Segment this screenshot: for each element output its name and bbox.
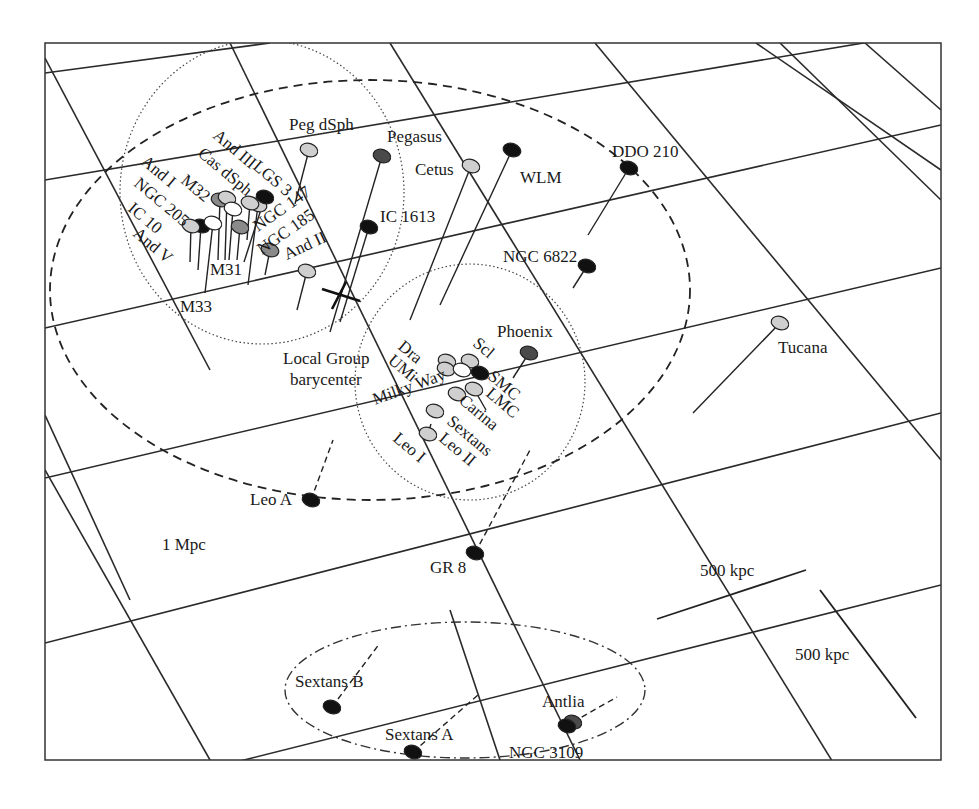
- galaxy-label-cetus: Cetus: [415, 160, 454, 179]
- galaxy-label-ngc-6822: NGC 6822: [503, 247, 577, 266]
- scale-bar-vertical-label: 500 kpc: [795, 645, 850, 664]
- galaxy-label-ic-1613: IC 1613: [380, 207, 435, 226]
- galaxy-label-peg-dsph: Peg dSph: [289, 115, 354, 134]
- galaxy-marker-sextans-b: [321, 698, 342, 716]
- one-mpc-label: 1 Mpc: [162, 535, 206, 554]
- galaxy-marker-leo-a: [300, 491, 321, 509]
- galaxy-label-pegasus: Pegasus: [387, 127, 442, 146]
- galaxy-marker-tucana: [769, 314, 790, 332]
- galaxy-label-m32: M32: [177, 171, 214, 206]
- galaxy-marker-leo-ii: [417, 425, 438, 443]
- galaxy-label-tucana: Tucana: [778, 338, 828, 357]
- galaxy-marker-sextans: [424, 402, 445, 420]
- galaxy-marker-wlm: [501, 141, 522, 159]
- stem-pegasus: [330, 156, 382, 332]
- stem-and-i: [218, 200, 220, 260]
- galaxy-label-m33: M33: [180, 297, 212, 316]
- galaxy-marker-peg-dsph: [298, 141, 319, 159]
- scale-bar-horizontal-label: 500 kpc: [700, 561, 755, 580]
- galaxy-label-wlm: WLM: [520, 168, 562, 187]
- galaxy-marker-cetus: [460, 157, 481, 175]
- galaxy-label-phoenix: Phoenix: [497, 322, 553, 341]
- galaxy-marker-pegasus: [371, 147, 392, 165]
- galaxy-label-ngc-3109: NGC 3109: [509, 743, 583, 762]
- barycenter-label-line1: Local Group: [283, 349, 369, 368]
- galaxy-label-sextans-a: Sextans A: [385, 725, 454, 744]
- one-mpc-ring: [50, 80, 690, 500]
- stem-tucana: [693, 323, 780, 413]
- galaxy-label-antlia: Antlia: [542, 692, 585, 711]
- galaxy-marker-sextans-a: [402, 743, 423, 761]
- barycenter-label-line2: barycenter: [290, 370, 362, 389]
- stem-ngc-205: [229, 209, 233, 260]
- stem-leo-a: [311, 440, 333, 500]
- galaxy-label-leo-a: Leo A: [250, 490, 293, 509]
- stem-gr-8: [475, 450, 530, 553]
- galaxy-marker-phoenix: [518, 344, 539, 362]
- galaxy-marker-and-ii: [296, 262, 317, 280]
- galaxy-label-sextans-b: Sextans B: [295, 672, 363, 691]
- galaxy-marker-ngc-6822: [576, 257, 597, 275]
- stem-ddo-210: [588, 168, 629, 235]
- stem-m31-core: [205, 223, 213, 293]
- galaxy-label-gr-8: GR 8: [430, 558, 466, 577]
- galaxy-label-m31: M31: [210, 260, 242, 279]
- galaxy-marker-ic-1613: [358, 218, 379, 236]
- galaxy-label-ddo-210: DDO 210: [612, 142, 679, 161]
- local-group-diagram: Peg dSphPegasusCetusWLMDDO 210IC 1613NGC…: [0, 0, 979, 809]
- barycenter-cross-icon: [322, 282, 360, 309]
